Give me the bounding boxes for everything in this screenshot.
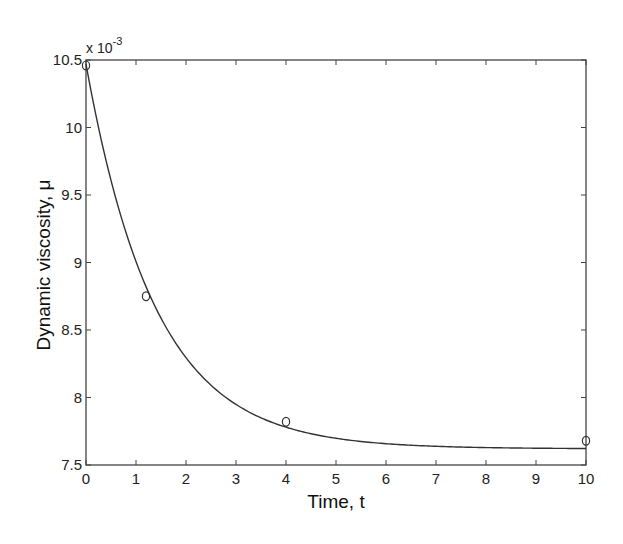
y-tick-label: 8 [74, 389, 82, 406]
fit-line [86, 64, 586, 448]
data-markers [82, 61, 589, 445]
x-tick-label: 1 [132, 470, 140, 487]
y-multiplier-label: x 10-3 [86, 35, 122, 56]
x-tick-label: 0 [82, 470, 90, 487]
data-point-marker [142, 292, 149, 301]
x-tick-label: 7 [432, 470, 440, 487]
y-axis-label: Dynamic viscosity, μ [33, 179, 54, 350]
x-tick-label: 9 [532, 470, 540, 487]
axis-ticks: 0123456789107.588.599.51010.5 [53, 51, 595, 487]
x-tick-label: 6 [382, 470, 390, 487]
y-tick-label: 8.5 [61, 321, 82, 338]
x-axis-label: Time, t [307, 491, 365, 512]
y-tick-label: 10 [65, 119, 82, 136]
plot-box [86, 60, 586, 465]
data-point-marker [282, 417, 289, 426]
x-tick-label: 4 [282, 470, 290, 487]
x-tick-label: 10 [578, 470, 595, 487]
y-tick-label: 9 [74, 254, 82, 271]
viscosity-chart: 0123456789107.588.599.51010.5 Dynamic vi… [0, 0, 623, 544]
y-multiplier-exponent: -3 [112, 35, 122, 47]
y-tick-label: 7.5 [61, 456, 82, 473]
x-tick-label: 8 [482, 470, 490, 487]
x-tick-label: 2 [182, 470, 190, 487]
y-tick-label: 9.5 [61, 186, 82, 203]
fitted-curve [86, 64, 586, 448]
x-tick-label: 5 [332, 470, 340, 487]
plot-frame [86, 60, 586, 465]
y-tick-label: 10.5 [53, 51, 82, 68]
x-tick-label: 3 [232, 470, 240, 487]
y-multiplier-base: x 10 [86, 40, 113, 56]
